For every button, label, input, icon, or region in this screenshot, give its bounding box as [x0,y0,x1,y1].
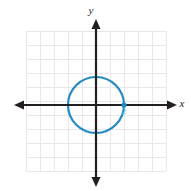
y-axis-label: y [88,4,94,16]
radius-tick-label: 2 [122,106,127,116]
y-axis [92,19,101,187]
x-axis-label: x [179,97,185,109]
coordinate-plane-figure: y x 2 [0,0,191,191]
graph-svg: y x 2 [0,0,191,191]
